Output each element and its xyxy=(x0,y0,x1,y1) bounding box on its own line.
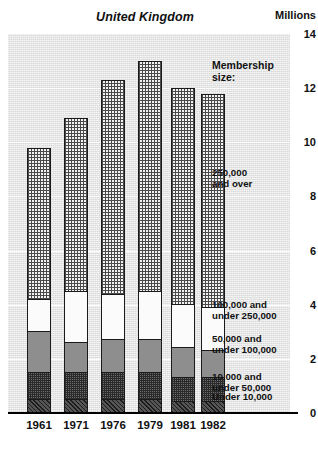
x-tick-label: 1982 xyxy=(200,419,226,431)
bar-segment xyxy=(139,372,161,399)
y-tick-label: 12 xyxy=(296,82,316,94)
bars-container xyxy=(8,34,290,413)
legend-item-over250k: 250,000 and over xyxy=(212,168,294,189)
legend-item-100to250k: 100,000 and under 250,000 xyxy=(212,300,294,321)
bar-segment xyxy=(202,95,224,308)
x-tick-label: 1971 xyxy=(63,419,89,431)
bar-1982[interactable] xyxy=(201,94,225,413)
y-tick-label: 6 xyxy=(296,245,316,257)
bar-segment xyxy=(28,149,50,299)
legend-item-50to100k: 50,000 and under 100,000 xyxy=(212,334,294,355)
bar-1976[interactable] xyxy=(101,80,125,413)
y-tick-label: 8 xyxy=(296,190,316,202)
x-axis-line xyxy=(8,412,298,414)
bar-segment xyxy=(172,89,194,304)
bar-segment xyxy=(172,304,194,347)
bar-1961[interactable] xyxy=(27,148,51,413)
bar-segment xyxy=(65,399,87,412)
bar-segment xyxy=(28,331,50,371)
legend-item-under10k: Under 10,000 xyxy=(212,392,294,403)
bar-segment xyxy=(139,399,161,412)
bar-segment xyxy=(65,119,87,291)
y-axis-unit-label: Millions xyxy=(275,9,316,21)
y-tick-label: 4 xyxy=(296,299,316,311)
y-tick-label: 0 xyxy=(296,407,316,419)
bar-segment xyxy=(139,62,161,291)
bar-segment xyxy=(172,377,194,401)
bar-segment xyxy=(102,372,124,399)
y-tick-label: 2 xyxy=(296,353,316,365)
bar-segment xyxy=(172,401,194,412)
bar-segment xyxy=(139,291,161,339)
bar-segment xyxy=(65,342,87,372)
y-tick-label: 10 xyxy=(296,136,316,148)
bar-segment xyxy=(28,299,50,331)
bar-segment xyxy=(65,372,87,399)
legend-heading: Membership size: xyxy=(212,60,297,83)
x-tick-label: 1979 xyxy=(137,419,163,431)
x-tick-label: 1961 xyxy=(26,419,52,431)
bar-segment xyxy=(65,291,87,342)
bar-segment xyxy=(102,294,124,340)
bar-segment xyxy=(139,339,161,371)
x-tick-label: 1981 xyxy=(170,419,196,431)
bar-segment xyxy=(202,401,224,412)
y-tick-label: 14 xyxy=(296,28,316,40)
bar-1981[interactable] xyxy=(171,88,195,413)
bar-1979[interactable] xyxy=(138,61,162,413)
chart-title: United Kingdom xyxy=(70,10,220,24)
chart-root: United Kingdom Millions 14121086420 1961… xyxy=(0,0,318,453)
legend-item-10to50k: 10,000 and under 50,000 xyxy=(212,372,294,393)
bar-segment xyxy=(28,399,50,412)
bar-1971[interactable] xyxy=(64,118,88,413)
x-tick-label: 1976 xyxy=(100,419,126,431)
bar-segment xyxy=(28,372,50,399)
bar-segment xyxy=(172,347,194,377)
bar-segment xyxy=(102,81,124,294)
bar-segment xyxy=(102,399,124,412)
bar-segment xyxy=(102,339,124,371)
